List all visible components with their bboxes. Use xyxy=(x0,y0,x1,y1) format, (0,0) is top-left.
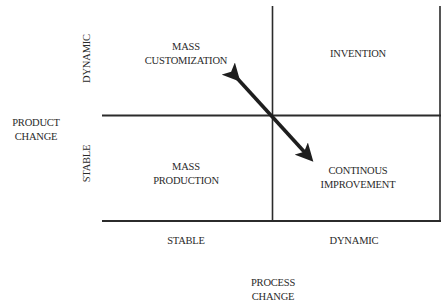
x-axis-title: PROCESS CHANGE xyxy=(233,276,313,304)
quadrant-label-line2: PRODUCTION xyxy=(126,174,246,188)
quadrant-label-line1: CONTINOUS xyxy=(298,164,418,178)
quadrant-invention: INVENTION xyxy=(298,47,418,61)
y-axis-label-stable: STABLE xyxy=(81,134,92,194)
x-axis-title-line2: CHANGE xyxy=(233,290,313,304)
y-axis-label-dynamic: DYNAMIC xyxy=(81,29,92,89)
y-axis-title: PRODUCT CHANGE xyxy=(0,116,72,144)
quadrant-label-line2: IMPROVEMENT xyxy=(298,178,418,192)
quadrant-label-line1: MASS xyxy=(126,40,246,54)
quadrant-mass-customization: MASS CUSTOMIZATION xyxy=(126,40,246,68)
quadrant-label-line2: CUSTOMIZATION xyxy=(126,54,246,68)
y-axis-title-line1: PRODUCT xyxy=(0,116,72,130)
quadrant-label-line1: MASS xyxy=(126,160,246,174)
quadrant-label-line1: INVENTION xyxy=(298,47,418,61)
y-axis-title-line2: CHANGE xyxy=(0,130,72,144)
quadrant-mass-production: MASS PRODUCTION xyxy=(126,160,246,188)
x-axis-label-dynamic: DYNAMIC xyxy=(314,234,394,248)
x-axis-title-line1: PROCESS xyxy=(233,276,313,290)
quadrant-continous-improvement: CONTINOUS IMPROVEMENT xyxy=(298,164,418,192)
x-axis-label-stable: STABLE xyxy=(146,234,226,248)
